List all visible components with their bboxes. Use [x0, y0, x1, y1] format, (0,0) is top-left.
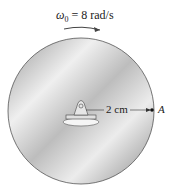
disk-diagram	[0, 0, 176, 192]
point-a-marker	[150, 108, 154, 112]
omega-subscript: 0	[64, 15, 68, 24]
omega-value: = 8 rad/s	[71, 8, 113, 22]
radius-dimension-label: 2 cm	[106, 103, 128, 115]
point-a-label: A	[158, 103, 165, 115]
angular-velocity-label: ω0 = 8 rad/s	[56, 8, 114, 24]
support-base	[66, 115, 96, 119]
